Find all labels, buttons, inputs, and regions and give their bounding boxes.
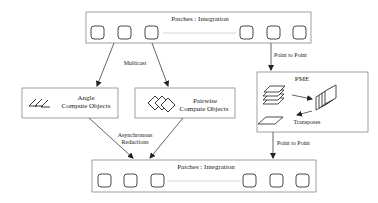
bottom-patches-box: Patches : Integration	[92, 160, 316, 192]
reduction-arrow-pairwise	[150, 118, 183, 158]
reduction-arrow-angle	[89, 118, 133, 158]
angle-compute-box: Angle Compute Objects	[22, 88, 118, 118]
pme-title: PME	[295, 75, 309, 83]
pairwise-compute-box: Pairwise Compute Objects	[135, 88, 235, 118]
multicast-arrow-pairwise	[152, 43, 168, 86]
angle-label-2: Compute Objects	[62, 102, 111, 110]
p2p-label-top: Point to Point	[274, 52, 307, 58]
top-patches-box: Patches : Integration	[86, 12, 311, 43]
transposes-label: Transposes	[294, 119, 321, 125]
pairwise-label-2: Compute Objects	[180, 105, 229, 113]
pme-box: PME Transposes	[257, 72, 368, 132]
bottom-patches-title: Patches : Integration	[177, 163, 235, 171]
pairwise-label-1: Pairwise	[193, 97, 217, 105]
multicast-label: Multicast	[124, 60, 147, 66]
top-patches-title: Patches : Integration	[171, 15, 229, 23]
async-label-2: Reductions	[122, 139, 150, 145]
async-label-1: Asynchronous	[118, 132, 153, 138]
multicast-arrow-angle	[97, 43, 114, 86]
p2p-label-bottom: Point to Point	[277, 140, 310, 146]
angle-label-1: Angle	[77, 94, 94, 102]
